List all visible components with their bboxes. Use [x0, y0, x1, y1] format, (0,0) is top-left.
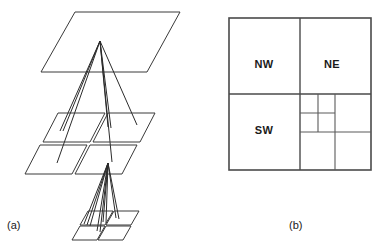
panel-a-caption: (a): [7, 219, 20, 231]
quadrant-label-sw: SW: [255, 124, 274, 136]
panel-b-group: NW NE SW (b): [229, 18, 371, 231]
panel-a-group: (a): [7, 12, 180, 240]
figure-root: (a) NW NE SW (b): [0, 0, 385, 250]
quadrant-label-nw: NW: [254, 58, 273, 70]
quadrant-label-ne: NE: [324, 58, 340, 70]
root-plane: [41, 12, 180, 72]
level-2-planes: [72, 211, 139, 240]
panel-b-caption: (b): [289, 219, 302, 231]
apex-rays-lower: [84, 163, 119, 232]
figure-svg: (a) NW NE SW (b): [0, 0, 385, 250]
